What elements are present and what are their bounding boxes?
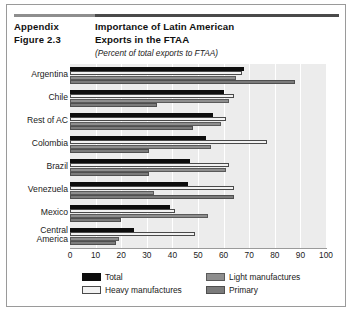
bar-group	[70, 87, 326, 110]
bar-group	[70, 156, 326, 179]
bar	[70, 126, 193, 130]
legend-label-primary: Primary	[229, 285, 258, 295]
legend-swatch-total	[82, 273, 101, 281]
y-axis-label: Brazil	[6, 162, 68, 172]
y-axis-label: Mexico	[6, 208, 68, 218]
appendix-line-1: Appendix	[14, 21, 92, 34]
bar	[70, 90, 224, 94]
legend-label-total: Total	[105, 272, 123, 282]
x-axis-tick-label: 30	[142, 250, 151, 260]
bar	[70, 168, 226, 172]
bar	[70, 172, 149, 176]
bar	[70, 205, 170, 209]
bar-group	[70, 133, 326, 156]
y-axis-label: Rest of AC	[6, 116, 68, 126]
x-axis-tick-label: 100	[319, 250, 333, 260]
bar	[70, 191, 154, 195]
x-axis-tick-label: 40	[168, 250, 177, 260]
bar	[70, 136, 206, 140]
bar	[70, 145, 211, 149]
bar	[70, 182, 188, 186]
x-axis-line	[70, 248, 327, 249]
bar	[70, 122, 221, 126]
y-axis-label: Chile	[6, 93, 68, 103]
chart-figure: Appendix Figure 2.3 Importance of Latin …	[0, 0, 353, 312]
chart-title-line-1: Importance of Latin American	[95, 21, 345, 34]
legend-swatch-heavy-manufactures	[82, 286, 101, 294]
bar	[70, 99, 229, 103]
bar	[70, 71, 242, 75]
legend-item-light-manufactures: Light manufactures	[206, 272, 300, 282]
bar	[70, 149, 149, 153]
legend-row-2: Heavy manufactures Primary	[82, 285, 332, 298]
bar-group	[70, 225, 326, 248]
bar	[70, 218, 121, 222]
y-axis-label: Colombia	[6, 139, 68, 149]
bar	[70, 140, 267, 144]
bar-group	[70, 64, 326, 87]
bar	[70, 80, 295, 84]
gridline	[326, 64, 327, 248]
bar	[70, 76, 236, 80]
bar	[70, 232, 195, 236]
x-axis-tick-label: 20	[117, 250, 126, 260]
bar-group	[70, 110, 326, 133]
legend-swatch-primary	[206, 286, 225, 294]
title-block: Importance of Latin American Exports in …	[95, 21, 345, 58]
bar	[70, 186, 234, 190]
x-axis-ticks: 0102030405060708090100	[0, 250, 353, 264]
x-axis-tick-label: 10	[91, 250, 100, 260]
bar	[70, 195, 234, 199]
plot-area	[70, 64, 326, 248]
bar	[70, 241, 116, 245]
figure-header: Appendix Figure 2.3 Importance of Latin …	[14, 21, 339, 61]
appendix-label: Appendix Figure 2.3	[14, 21, 92, 46]
chart-legend: Total Light manufactures Heavy manufactu…	[82, 272, 332, 298]
y-axis-label: Venezuela	[6, 185, 68, 195]
appendix-line-2: Figure 2.3	[14, 34, 92, 47]
bar-group	[70, 179, 326, 202]
legend-label-heavy-manufactures: Heavy manufactures	[105, 285, 182, 295]
legend-label-light-manufactures: Light manufactures	[229, 272, 300, 282]
bar-group	[70, 202, 326, 225]
legend-item-total: Total	[82, 272, 123, 282]
bar	[70, 103, 157, 107]
bar	[70, 209, 175, 213]
header-rule-dark	[95, 14, 339, 17]
bar	[70, 163, 229, 167]
legend-row-1: Total Light manufactures	[82, 272, 332, 285]
y-axis-labels: ArgentinaChileRest of ACColombiaBrazilVe…	[6, 64, 68, 248]
chart-title-line-2: Exports in the FTAA	[95, 34, 345, 47]
x-axis-tick-label: 90	[296, 250, 305, 260]
legend-item-heavy-manufactures: Heavy manufactures	[82, 285, 182, 295]
legend-item-primary: Primary	[206, 285, 258, 295]
x-axis-tick-label: 60	[219, 250, 228, 260]
x-axis-tick-label: 50	[193, 250, 202, 260]
legend-swatch-light-manufactures	[206, 273, 225, 281]
bar	[70, 214, 208, 218]
bar	[70, 228, 134, 232]
y-axis-label: CentralAmerica	[6, 226, 68, 245]
bar	[70, 237, 119, 241]
y-axis-label: Argentina	[6, 70, 68, 80]
x-axis-tick-label: 0	[68, 250, 73, 260]
bar	[70, 67, 244, 71]
bar	[70, 113, 213, 117]
bar	[70, 159, 190, 163]
x-axis-tick-label: 80	[270, 250, 279, 260]
bar	[70, 94, 234, 98]
bar	[70, 117, 226, 121]
x-axis-tick-label: 70	[245, 250, 254, 260]
chart-subtitle: (Percent of total exports to FTAA)	[95, 48, 345, 58]
